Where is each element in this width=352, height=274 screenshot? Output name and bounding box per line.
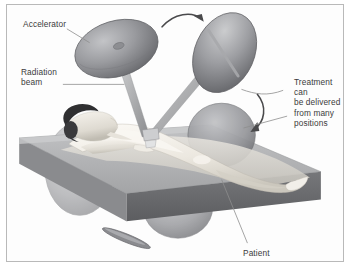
- illustration-scene: Accelerator Radiation beam Treatment can…: [7, 5, 343, 261]
- label-accelerator: Accelerator: [23, 19, 66, 29]
- leader-line-treatment: [241, 89, 283, 94]
- label-treatment-positions: Treatment can be delivered from many pos…: [294, 77, 343, 128]
- label-patient: Patient: [243, 248, 270, 258]
- gantry-head-left: [68, 10, 166, 88]
- label-radiation-beam: Radiation beam: [21, 67, 57, 87]
- illustration-frame: Accelerator Radiation beam Treatment can…: [6, 4, 344, 262]
- radiotherapy-illustration: [7, 5, 343, 261]
- gantry-head-edge-on: [101, 225, 152, 252]
- rotation-arrow-top: [162, 14, 204, 27]
